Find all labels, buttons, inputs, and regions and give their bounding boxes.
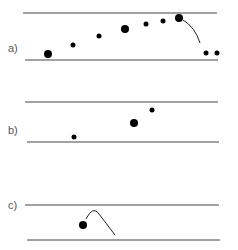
panel-a: a) xyxy=(8,13,220,60)
ball-dot xyxy=(204,51,209,56)
ball-dot xyxy=(72,135,77,140)
ball-dot xyxy=(161,19,166,24)
ball-dot xyxy=(79,221,87,229)
panel-label: a) xyxy=(8,42,18,54)
panel-b: b) xyxy=(8,102,219,142)
ball-dot xyxy=(150,108,155,113)
panel-c: c) xyxy=(8,199,220,240)
trajectory-curve xyxy=(183,20,200,43)
panel-label: c) xyxy=(8,199,17,211)
ball-dot xyxy=(97,34,102,39)
ball-dot xyxy=(144,22,149,27)
ball-dot xyxy=(71,43,76,48)
ball-dot xyxy=(215,51,220,56)
ball-trajectory-diagram: a)b)c) xyxy=(0,0,238,250)
trajectory-curve xyxy=(86,210,115,235)
ball-dot xyxy=(121,25,129,33)
ball-dot xyxy=(44,50,52,58)
ball-dot xyxy=(175,14,183,22)
ball-dot xyxy=(130,119,138,127)
panel-label: b) xyxy=(8,124,18,136)
